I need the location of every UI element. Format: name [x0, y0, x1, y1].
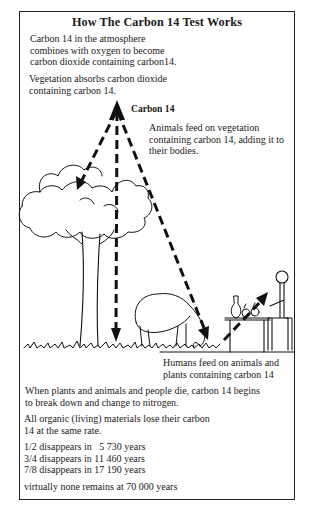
arrow-source-to-animal — [118, 112, 204, 328]
carbon-cycle-illustration — [0, 0, 313, 516]
arrow-source-to-tree — [80, 112, 116, 184]
human-body-icon — [268, 283, 288, 350]
grass-ground-line — [24, 341, 220, 348]
tree-trunk-icon — [80, 232, 83, 346]
human-head-icon — [276, 271, 288, 283]
table-icon — [225, 318, 270, 352]
arrowhead-ground-icon — [111, 328, 121, 342]
bottle-icon — [231, 296, 241, 318]
arrow-source-to-ground — [116, 112, 117, 330]
arrowhead-animal-icon — [198, 326, 209, 340]
